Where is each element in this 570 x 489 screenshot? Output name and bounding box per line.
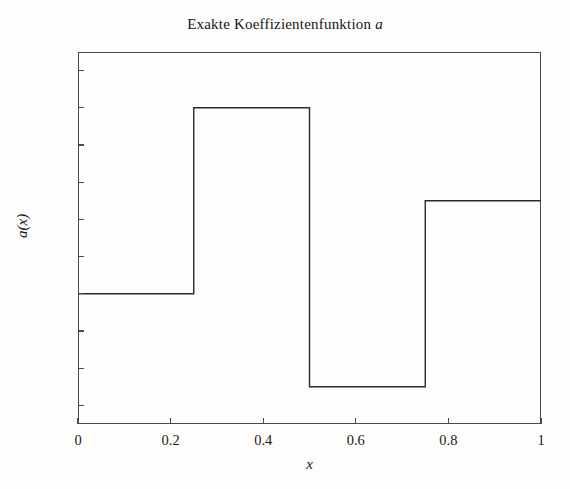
y-tick-mark (78, 330, 84, 331)
y-tick-mark (78, 219, 84, 220)
y-tick-mark (78, 144, 84, 145)
x-axis-label: x (78, 456, 541, 473)
x-tick-label: 0.6 (347, 432, 365, 449)
y-tick-mark (78, 368, 84, 369)
chart-title-text: Exakte Koeffizientenfunktion (187, 16, 371, 32)
x-tick-label: 0 (74, 432, 81, 449)
data-series-a-of-x (78, 52, 541, 424)
plot-area (78, 52, 541, 424)
x-tick-mark (170, 418, 171, 424)
chart-title-variable: a (375, 16, 383, 32)
figure-canvas: Exakte Koeffizientenfunktion a 0.40.60.8… (0, 0, 570, 489)
x-tick-mark (448, 418, 449, 424)
x-tick-mark (540, 418, 541, 424)
y-axis-label: a(x) (14, 214, 31, 238)
x-tick-mark (355, 418, 356, 424)
x-tick-mark (77, 418, 78, 424)
y-tick-mark (78, 70, 84, 71)
y-tick-mark (78, 405, 84, 406)
x-tick-label: 0.2 (162, 432, 180, 449)
y-tick-mark (78, 293, 84, 294)
y-tick-mark (78, 182, 84, 183)
y-tick-mark (78, 256, 84, 257)
chart-title: Exakte Koeffizientenfunktion a (0, 16, 570, 33)
x-tick-label: 0.4 (254, 432, 272, 449)
x-tick-mark (263, 418, 264, 424)
x-tick-label: 0.8 (439, 432, 457, 449)
x-tick-label: 1 (537, 432, 544, 449)
y-tick-mark (78, 107, 84, 108)
step-function-line (78, 108, 541, 387)
